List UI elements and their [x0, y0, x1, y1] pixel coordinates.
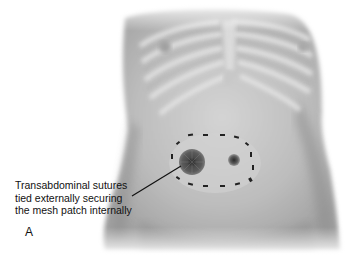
- panel-letter: A: [25, 225, 33, 239]
- callout-line-1: Transabdominal sutures: [15, 179, 132, 192]
- callout-line-3: the mesh patch internally: [15, 204, 132, 217]
- torso-illustration: [0, 0, 349, 258]
- callout-label: Transabdominal sutures tied externally s…: [15, 179, 132, 217]
- callout-line-2: tied externally securing: [15, 192, 132, 205]
